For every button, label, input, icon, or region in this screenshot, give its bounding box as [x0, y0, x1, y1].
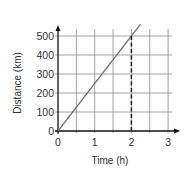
x-axis-arrow-icon: [174, 129, 180, 134]
distance-time-chart: 01230100200300400500 Time (h) Distance (…: [0, 0, 186, 178]
y-tick-label: 300: [36, 68, 54, 80]
tick-labels: 01230100200300400500: [36, 30, 171, 148]
x-tick-label: 2: [128, 136, 134, 148]
x-axis-label: Time (h): [92, 155, 129, 166]
data-series: [58, 24, 141, 131]
y-tick-label: 500: [36, 30, 54, 42]
x-tick-label: 1: [92, 136, 98, 148]
y-axis-label: Distance (km): [12, 52, 23, 114]
grid: [55, 29, 172, 133]
y-tick-label: 100: [36, 106, 54, 118]
axes: [55, 25, 180, 134]
y-tick-label: 200: [36, 87, 54, 99]
y-axis-arrow-icon: [56, 25, 61, 31]
y-tick-label: 0: [48, 125, 54, 137]
y-tick-label: 400: [36, 49, 54, 61]
x-tick-label: 0: [55, 136, 61, 148]
x-tick-label: 3: [165, 136, 171, 148]
series-line: [58, 24, 141, 131]
